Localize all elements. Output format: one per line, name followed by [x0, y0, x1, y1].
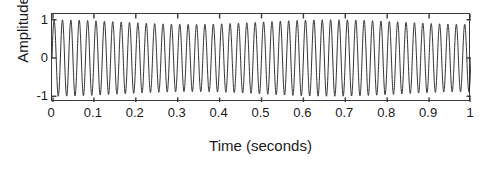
x-tick-label: 0: [47, 106, 54, 119]
x-tick-label: 0.9: [419, 106, 437, 119]
chart-figure: Amplitude -101 00.10.20.30.40.50.60.70.8…: [0, 0, 486, 170]
x-tick-label: 0.4: [210, 106, 228, 119]
x-tick-label: 0.5: [251, 106, 269, 119]
x-tick-label: 0.3: [168, 106, 186, 119]
x-tick-label: 0.6: [293, 106, 311, 119]
x-tick-label: 1: [466, 106, 473, 119]
x-tick-label: 0.1: [84, 106, 102, 119]
x-tick-label: 0.2: [126, 106, 144, 119]
x-axis-title: Time (seconds): [51, 137, 470, 154]
x-tick-label: 0.8: [377, 106, 395, 119]
x-tick-label: 0.7: [335, 106, 353, 119]
